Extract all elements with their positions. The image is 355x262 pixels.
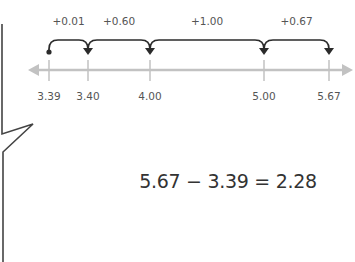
jump-label: +0.67 bbox=[280, 15, 312, 27]
tick-label: 3.40 bbox=[76, 90, 99, 102]
jump-label: +0.01 bbox=[52, 15, 84, 27]
axis-left-arrow-icon bbox=[28, 64, 39, 76]
jump-arc bbox=[264, 40, 329, 52]
jump-arc bbox=[49, 40, 88, 52]
jump-arc bbox=[150, 40, 264, 52]
tick-label: 5.00 bbox=[252, 90, 275, 102]
equation-text: 5.67 − 3.39 = 2.28 bbox=[100, 170, 355, 192]
jump-label: +1.00 bbox=[191, 15, 223, 27]
tick-label: 4.00 bbox=[138, 90, 161, 102]
arrowhead-icon bbox=[324, 48, 334, 55]
number-line-diagram: 3.393.404.005.005.67+0.01+0.60+1.00+0.67 bbox=[0, 0, 355, 262]
speech-bubble-outline bbox=[2, 24, 33, 262]
jump-label: +0.60 bbox=[103, 15, 135, 27]
axis-right-arrow-icon bbox=[342, 64, 353, 76]
tick-label: 5.67 bbox=[317, 90, 340, 102]
jump-arc bbox=[88, 40, 150, 52]
tick-label: 3.39 bbox=[37, 90, 60, 102]
